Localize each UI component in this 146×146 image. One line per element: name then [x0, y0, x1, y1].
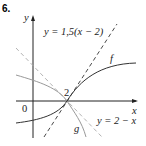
diagram: 6. y x 0 y = 1,5(x − 2) f g 2 y = 2 − x: [0, 0, 146, 146]
f-label: f: [110, 54, 113, 65]
y-axis-arrow-icon: [31, 15, 35, 21]
y-axis-label: y: [24, 13, 29, 24]
line-label: y = 2 − x: [97, 116, 136, 127]
point-label: 2: [64, 88, 69, 99]
curve-f: [16, 63, 136, 123]
tangent-label: y = 1,5(x − 2): [44, 27, 103, 38]
x-axis-arrow-icon: [132, 99, 138, 103]
g-label: g: [74, 124, 79, 135]
exercise-number: 6.: [2, 3, 10, 14]
origin-label: 0: [22, 104, 27, 115]
